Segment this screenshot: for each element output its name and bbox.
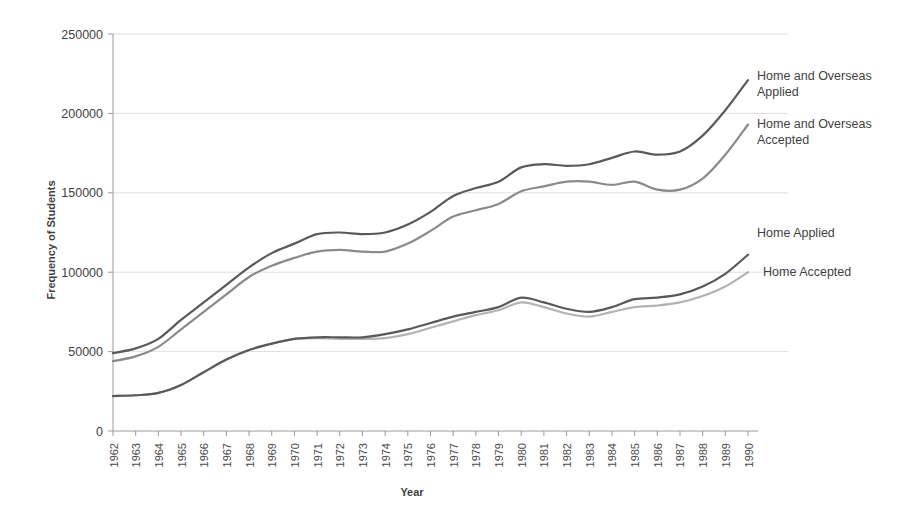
y-tick-label: 100000	[61, 266, 103, 280]
x-tick-label: 1977	[448, 443, 460, 467]
axes-group	[113, 34, 758, 431]
x-tick-label: 1990	[743, 443, 755, 467]
y-tick-labels-group: 050000100000150000200000250000	[61, 28, 103, 439]
x-tick-label: 1986	[652, 443, 664, 467]
x-tick-label: 1984	[606, 443, 618, 467]
x-tick-label: 1981	[538, 443, 550, 467]
x-tick-label: 1965	[176, 443, 188, 467]
series-label: Home and Overseas	[757, 117, 872, 131]
x-tick-label: 1970	[289, 443, 301, 467]
series-label-line2: Accepted	[757, 133, 809, 147]
y-tick-label: 150000	[61, 186, 103, 200]
x-tick-label: 1983	[584, 443, 596, 467]
x-tick-label: 1978	[470, 443, 482, 467]
y-tick-label: 50000	[68, 345, 103, 359]
x-tick-label: 1968	[244, 443, 256, 467]
x-tick-label: 1987	[674, 443, 686, 467]
data-lines-group	[113, 80, 748, 396]
series-line	[113, 255, 748, 396]
x-tick-label: 1964	[153, 443, 165, 467]
line-chart: 050000100000150000200000250000 196219631…	[0, 0, 918, 511]
y-axis-title: Frequency of Students	[45, 180, 57, 299]
series-label-line2: Applied	[757, 85, 799, 99]
x-tick-label: 1973	[357, 443, 369, 467]
x-tick-label: 1963	[130, 443, 142, 467]
y-tick-label: 250000	[61, 28, 103, 42]
x-tick-label: 1971	[312, 443, 324, 467]
x-tick-label: 1989	[720, 443, 732, 467]
series-label: Home and Overseas	[757, 69, 872, 83]
x-tick-label: 1969	[266, 443, 278, 467]
x-tick-label: 1982	[561, 443, 573, 467]
x-tick-label: 1985	[629, 443, 641, 467]
series-label: Home Applied	[757, 226, 835, 240]
series-labels-group: Home and OverseasAppliedHome and Oversea…	[757, 69, 872, 279]
x-tick-label: 1974	[380, 443, 392, 467]
series-line	[113, 272, 748, 396]
x-tick-label: 1980	[516, 443, 528, 467]
x-tick-label: 1967	[221, 443, 233, 467]
x-tick-label: 1988	[697, 443, 709, 467]
series-label: Home Accepted	[763, 265, 851, 279]
chart-canvas: 050000100000150000200000250000 196219631…	[0, 0, 918, 511]
x-tick-label: 1979	[493, 443, 505, 467]
series-line	[113, 80, 748, 353]
series-line	[113, 125, 748, 362]
x-tick-labels-group: 1962196319641965196619671968196919701971…	[108, 443, 755, 467]
x-tick-label: 1975	[402, 443, 414, 467]
x-tick-label: 1972	[334, 443, 346, 467]
tick-marks-group	[108, 34, 748, 436]
y-tick-label: 200000	[61, 107, 103, 121]
x-tick-label: 1976	[425, 443, 437, 467]
x-tick-label: 1962	[108, 443, 120, 467]
x-axis-title: Year	[400, 486, 424, 498]
x-tick-label: 1966	[198, 443, 210, 467]
y-tick-label: 0	[96, 425, 103, 439]
